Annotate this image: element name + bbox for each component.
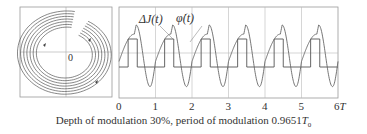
legend-phi-dot: φ̇(t) <box>176 11 194 25</box>
time-series-plot: ΔJ(t) φ̇(t) 0123456T <box>116 7 347 112</box>
spiral-trajectory <box>18 11 112 94</box>
legend-delta-j: ΔJ(t) <box>138 12 163 26</box>
caption-text: Depth of modulation 30%, period of modul… <box>56 114 302 126</box>
x-tick-label: 2 <box>189 100 195 112</box>
x-tick-label: 4 <box>262 100 268 112</box>
x-tick-label: 5 <box>299 100 305 112</box>
x-tick-label: 1 <box>153 100 159 112</box>
caption-subscript: 0 <box>308 121 312 129</box>
direction-arrow-icon <box>43 43 46 47</box>
x-tick-labels: 0123456T <box>116 100 347 112</box>
x-tick-label: 6T <box>334 100 347 112</box>
figure-caption: Depth of modulation 30%, period of modul… <box>0 114 367 129</box>
x-tick-label: 3 <box>226 100 232 112</box>
phase-portrait: 0 <box>18 7 113 97</box>
x-tick-label: 0 <box>116 100 122 112</box>
origin-label: 0 <box>68 52 73 63</box>
